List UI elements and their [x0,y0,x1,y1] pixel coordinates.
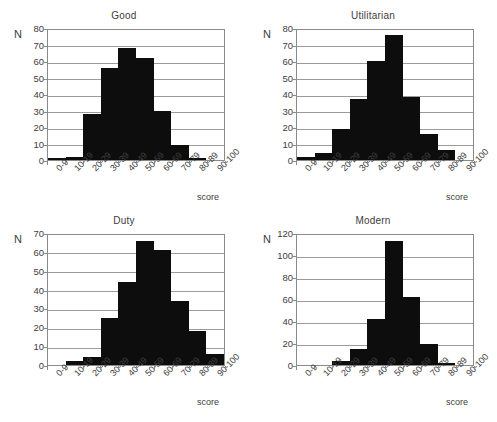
plot-area-utilitarian [296,29,474,161]
y-tick-mark [293,95,296,96]
bar-cell [350,30,368,160]
x-tick-mark [207,366,208,370]
y-axis-label-duty: N [14,233,22,245]
bar-cell [455,235,473,365]
bar-cell [136,30,154,160]
x-tick-mark [207,161,208,165]
x-tick-mark [154,161,155,165]
bar-cell [101,30,119,160]
x-tick-mark [474,366,475,370]
plot-area-modern [296,234,474,366]
bar-cell [171,30,189,160]
bar-cell [66,30,84,160]
y-tick-label: 30 [22,305,44,315]
y-tick-label: 0 [22,361,44,371]
x-tick-mark [65,161,66,165]
bar-cell [297,235,315,365]
x-tick-mark [421,161,422,165]
bar [367,61,385,160]
chart-panel-utilitarian: UtilitarianNscore010203040506070800-910-… [249,0,497,205]
y-tick-label: 30 [271,107,293,117]
x-tick-mark [47,366,48,370]
x-tick-mark [403,161,404,165]
x-tick-mark [438,366,439,370]
chart-panel-modern: ModernNscore0204060801001200-910-1920-29… [249,205,497,410]
x-tick-mark [349,161,350,165]
x-tick-mark [332,366,333,370]
y-tick-label: 40 [22,286,44,296]
x-tick-mark [136,161,137,165]
y-tick-mark [293,128,296,129]
y-tick-mark [44,309,47,310]
chart-title-utilitarian: Utilitarian [249,10,497,21]
bar-cell [350,235,368,365]
y-tick-label: 50 [22,74,44,84]
x-tick-mark [367,161,368,165]
y-tick-label: 70 [22,229,44,239]
y-tick-label: 60 [271,295,293,305]
y-tick-label: 10 [22,342,44,352]
bar-cell [420,235,438,365]
x-tick-mark [136,366,137,370]
bar [154,250,172,365]
y-tick-mark [293,234,296,235]
chart-panel-duty: DutyNscore0102030405060700-910-1920-2930… [0,205,248,410]
x-tick-mark [83,366,84,370]
bar-cell [66,235,84,365]
x-tick-mark [189,161,190,165]
y-tick-label: 80 [22,24,44,34]
y-tick-mark [44,328,47,329]
y-tick-mark [44,79,47,80]
bar-cell [83,30,101,160]
y-tick-label: 40 [271,90,293,100]
y-tick-label: 30 [22,107,44,117]
x-tick-mark [456,366,457,370]
plot-area-good [47,29,225,161]
y-tick-label: 0 [22,156,44,166]
bar-series-duty [48,235,224,365]
x-tick-mark [47,161,48,165]
bar-cell [367,30,385,160]
y-tick-mark [293,62,296,63]
bar-cell [438,30,456,160]
y-tick-label: 70 [271,41,293,51]
bar-cell [438,235,456,365]
bar-cell [206,30,224,160]
y-tick-mark [44,46,47,47]
bar-cell [385,30,403,160]
y-tick-mark [293,112,296,113]
bar-cell [297,30,315,160]
x-tick-mark [154,366,155,370]
y-tick-mark [293,29,296,30]
x-tick-mark [65,366,66,370]
x-axis-labels-duty: 0-910-1920-2930-3940-4950-5960-6970-7980… [47,368,225,402]
x-tick-mark [456,161,457,165]
bar-cell [403,30,421,160]
bar-cell [48,235,66,365]
bar-cell [385,235,403,365]
y-tick-mark [44,112,47,113]
y-tick-mark [293,344,296,345]
bar [403,97,421,160]
plot-area-duty [47,234,225,366]
x-tick-mark [367,366,368,370]
x-tick-mark [100,161,101,165]
x-tick-mark [421,366,422,370]
y-tick-label: 60 [271,57,293,67]
x-tick-mark [438,161,439,165]
bar [385,241,403,365]
y-tick-mark [293,322,296,323]
bar [101,68,119,160]
x-axis-labels-utilitarian: 0-910-1920-2930-3940-4950-5960-6970-7980… [296,163,474,197]
bar [171,301,189,365]
y-tick-mark [44,291,47,292]
y-tick-label: 80 [271,24,293,34]
bar-cell [315,30,333,160]
y-tick-mark [293,46,296,47]
bar [118,48,136,160]
bar-cell [136,235,154,365]
y-axis-label-good: N [14,28,22,40]
x-tick-mark [385,161,386,165]
bar-cell [315,235,333,365]
y-tick-mark [44,347,47,348]
